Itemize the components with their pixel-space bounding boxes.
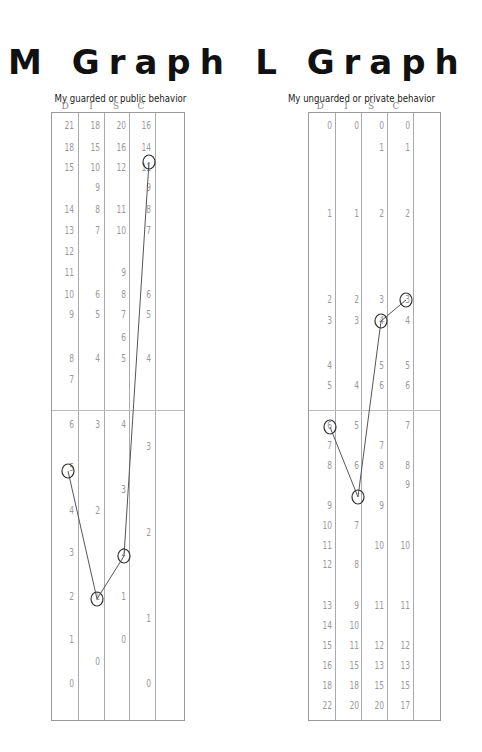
plot-line <box>68 162 149 599</box>
plot-line <box>330 300 406 497</box>
hand-drawn-plot-lines <box>0 0 482 752</box>
